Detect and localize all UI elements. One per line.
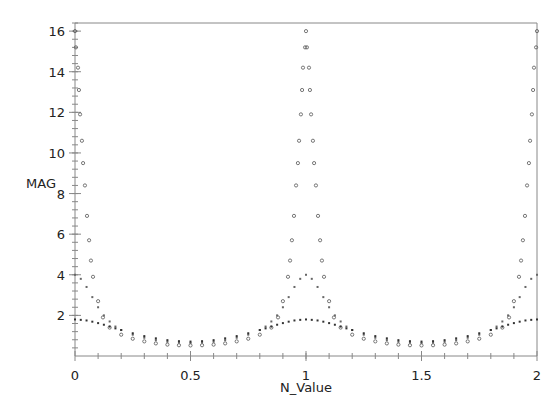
- data-point-dot: [103, 314, 105, 316]
- data-point-circle: [455, 342, 458, 345]
- data-point-circle: [286, 275, 289, 278]
- data-point-dot: [155, 337, 157, 339]
- data-point-dot: [224, 337, 226, 339]
- data-point-circle: [307, 66, 310, 69]
- data-point-dot: [467, 335, 469, 337]
- data-point-circle: [247, 337, 250, 340]
- data-point-dot: [317, 319, 319, 321]
- data-point-dot: [270, 320, 272, 322]
- y-tick-label: 14: [48, 65, 65, 80]
- data-point-circle: [85, 214, 88, 217]
- data-point-dot: [496, 326, 498, 328]
- data-point-dot: [351, 329, 353, 331]
- data-point-dot: [409, 340, 411, 342]
- series-peak-16: [73, 30, 538, 348]
- data-point-circle: [517, 275, 520, 278]
- data-point-circle: [235, 340, 238, 343]
- data-point-circle: [328, 300, 331, 303]
- data-point-dot: [91, 321, 93, 323]
- data-point-dot: [288, 321, 290, 323]
- data-point-dot: [507, 324, 509, 326]
- data-point-dot: [363, 332, 365, 334]
- data-point-dot: [299, 278, 301, 280]
- data-point-circle: [83, 184, 86, 187]
- data-point-circle: [292, 214, 295, 217]
- data-point-circle: [290, 239, 293, 242]
- data-point-dot: [282, 306, 284, 308]
- data-point-dot: [519, 321, 521, 323]
- data-point-dot: [166, 339, 168, 341]
- data-point-circle: [91, 275, 94, 278]
- data-point-circle: [131, 337, 134, 340]
- data-point-circle: [443, 343, 446, 346]
- data-point-circle: [362, 337, 365, 340]
- data-point-dot: [524, 319, 526, 321]
- y-tick-label: 12: [48, 105, 65, 120]
- data-point-dot: [478, 332, 480, 334]
- data-point-dot: [201, 340, 203, 342]
- data-point-dot: [317, 286, 319, 288]
- data-point-circle: [177, 344, 180, 347]
- data-point-dot: [74, 274, 76, 276]
- data-point-dot: [490, 329, 492, 331]
- data-point-dot: [455, 337, 457, 339]
- data-point-circle: [525, 184, 528, 187]
- data-point-dot: [114, 327, 116, 329]
- data-point-dot: [86, 319, 88, 321]
- data-point-dot: [270, 326, 272, 328]
- data-point-circle: [322, 275, 325, 278]
- data-point-circle: [489, 333, 492, 336]
- data-point-dot: [109, 326, 111, 328]
- data-point-dot: [132, 332, 134, 334]
- data-point-dot: [74, 318, 76, 320]
- data-point-dot: [143, 335, 145, 337]
- data-point-dot: [397, 339, 399, 341]
- x-axis-title: N_Value: [280, 380, 332, 395]
- data-point-circle: [351, 333, 354, 336]
- data-point-circle: [374, 340, 377, 343]
- data-point-circle: [314, 184, 317, 187]
- data-point-dot: [311, 278, 313, 280]
- data-point-circle: [77, 88, 80, 91]
- data-point-circle: [143, 340, 146, 343]
- data-point-dot: [276, 324, 278, 326]
- data-point-circle: [311, 139, 314, 142]
- data-point-circle: [212, 343, 215, 346]
- x-tick-label: 1.5: [411, 368, 432, 383]
- data-point-dot: [519, 296, 521, 298]
- data-point-circle: [80, 139, 83, 142]
- data-point-circle: [81, 162, 84, 165]
- plot-frame: [75, 23, 537, 356]
- data-point-circle: [316, 214, 319, 217]
- data-point-circle: [385, 342, 388, 345]
- data-point-dot: [530, 319, 532, 321]
- data-point-dot: [213, 339, 215, 341]
- y-tick-label: 6: [57, 227, 65, 242]
- data-point-dot: [328, 306, 330, 308]
- data-point-circle: [288, 259, 291, 262]
- data-point-circle: [528, 139, 531, 142]
- data-point-dot: [340, 320, 342, 322]
- data-point-dot: [305, 318, 307, 320]
- y-tick-label: 8: [57, 187, 65, 202]
- x-tick-label: 0.5: [180, 368, 201, 383]
- data-point-circle: [478, 337, 481, 340]
- data-point-dot: [236, 335, 238, 337]
- series-peak-1.8: [74, 318, 538, 342]
- y-tick-label: 4: [57, 268, 65, 283]
- data-point-dot: [334, 324, 336, 326]
- data-point-circle: [154, 342, 157, 345]
- data-point-circle: [296, 162, 299, 165]
- data-point-dot: [328, 322, 330, 324]
- data-point-circle: [301, 66, 304, 69]
- data-point-dot: [80, 278, 82, 280]
- data-point-circle: [300, 88, 303, 91]
- data-point-dot: [513, 322, 515, 324]
- data-point-circle: [281, 300, 284, 303]
- data-point-dot: [114, 326, 116, 328]
- data-point-dot: [513, 306, 515, 308]
- data-point-circle: [531, 88, 534, 91]
- data-point-circle: [527, 162, 530, 165]
- data-point-dot: [91, 296, 93, 298]
- data-point-circle: [120, 333, 123, 336]
